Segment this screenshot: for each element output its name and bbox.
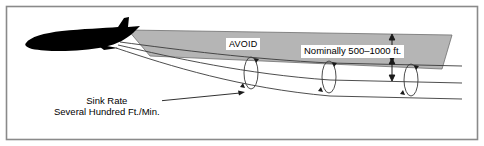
sink-rate-caption: Sink Rate Several Hundred Ft./Min.	[52, 96, 162, 118]
sink-rate-caption-line2: Several Hundred Ft./Min.	[54, 107, 160, 118]
nominal-altitude-label: Nominally 500–1000 ft.	[301, 45, 404, 58]
figure-border	[7, 7, 478, 140]
diagram-canvas	[0, 0, 484, 146]
avoid-label: AVOID	[226, 38, 260, 50]
wake-turbulence-diagram: AVOID Nominally 500–1000 ft. Sink Rate S…	[0, 0, 484, 146]
